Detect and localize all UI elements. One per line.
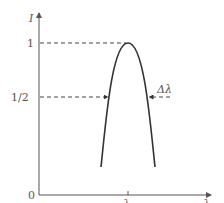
ytick-1: 1 xyxy=(27,37,34,50)
x-axis-label: λ xyxy=(202,198,210,203)
ytick-0: 0 xyxy=(28,189,35,202)
y-axis-label: I xyxy=(28,12,34,25)
delta-lambda-annotation: Δλ xyxy=(156,83,172,96)
intensity-curve xyxy=(101,43,155,167)
spectral-line-chart: I 1 1/2 0 λ₀ λ Δλ xyxy=(0,0,224,203)
xtick-lambda0: λ₀ xyxy=(122,198,135,203)
ytick-half: 1/2 xyxy=(11,91,29,104)
